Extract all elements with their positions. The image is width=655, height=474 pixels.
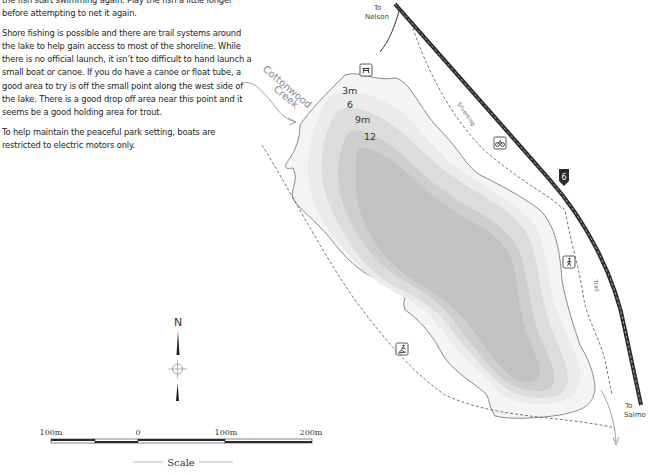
to-nelson-label-1: To: [373, 4, 381, 12]
lake: [286, 74, 596, 418]
compass: N: [168, 316, 187, 401]
scale-tick-label: 200m: [300, 428, 323, 437]
scale-tick-label: 100m: [40, 428, 63, 437]
depth-label-6m: 6: [347, 99, 353, 110]
outlet-stream: [601, 390, 616, 442]
depth-label-3m: 3m: [342, 85, 357, 96]
picnic-icon: [360, 64, 372, 76]
scale-title: Scale: [167, 457, 195, 468]
silverking-label: Silverking: [455, 101, 476, 127]
highway-6-shield: 6: [559, 169, 569, 186]
cross-country-ski-icon: [396, 343, 408, 355]
scale-tick-label: 0: [135, 428, 140, 437]
hiking-icon: [563, 256, 575, 268]
depth-label-12m: 12: [364, 131, 376, 142]
scale-bar: 100m 0 100m 200m Scale: [40, 428, 323, 468]
north-arrow: [177, 331, 180, 355]
north-label: N: [174, 316, 182, 329]
lake-map: Cottonwood Creek 6 To Nelson Silverking …: [0, 0, 655, 474]
cycling-icon: [494, 137, 506, 149]
creek-arrow: [288, 118, 296, 125]
trail-label: Trail: [592, 278, 601, 293]
to-nelson-label-2: Nelson: [365, 13, 389, 21]
to-salmo-label-1: To: [624, 402, 632, 410]
to-salmo-label-2: Salmo: [624, 411, 646, 419]
depth-label-9m: 9m: [355, 114, 370, 125]
highway-number: 6: [561, 173, 566, 182]
scale-tick-label: 100m: [215, 428, 238, 437]
